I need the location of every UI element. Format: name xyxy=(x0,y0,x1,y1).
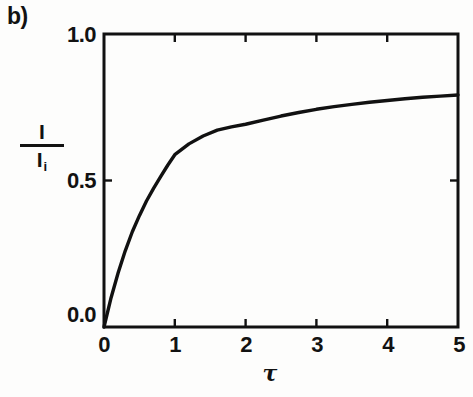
data-curve xyxy=(104,95,458,327)
figure-panel-b: b) I Ii 1.0 0.5 0.0 0 1 2 3 4 5 τ xyxy=(0,0,473,397)
plot-area xyxy=(0,0,473,397)
